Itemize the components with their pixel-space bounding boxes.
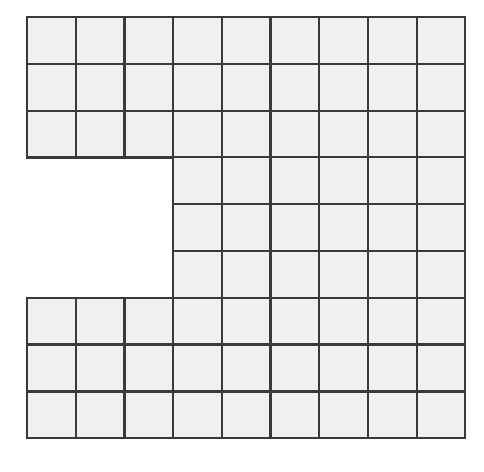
grid-cell <box>173 204 222 251</box>
grid-cell <box>173 157 222 204</box>
grid-cell <box>368 298 417 345</box>
grid-cell <box>319 17 368 64</box>
grid-cell <box>27 17 76 64</box>
grid-cell <box>271 111 320 158</box>
grid-cell <box>222 17 271 64</box>
grid-cell <box>222 64 271 111</box>
grid-cell <box>319 251 368 298</box>
grid-cell <box>271 157 320 204</box>
grid-cell <box>271 391 320 438</box>
grid-cell <box>222 251 271 298</box>
grid-cell <box>222 298 271 345</box>
grid-cell <box>319 111 368 158</box>
grid-cell <box>124 298 173 345</box>
grid-cell <box>319 298 368 345</box>
grid-cell <box>319 345 368 392</box>
grid-cell <box>173 251 222 298</box>
grid-cell <box>27 298 76 345</box>
grid-canvas <box>0 0 484 472</box>
grid-cell <box>417 17 466 64</box>
grid-figure <box>0 0 484 472</box>
grid-cell <box>173 345 222 392</box>
grid-cell <box>222 157 271 204</box>
grid-cell <box>173 17 222 64</box>
grid-cell <box>271 17 320 64</box>
grid-cell <box>271 251 320 298</box>
grid-cell <box>76 391 125 438</box>
grid-cell <box>417 204 466 251</box>
grid-cell <box>27 345 76 392</box>
grid-cell <box>319 391 368 438</box>
grid-cell <box>368 204 417 251</box>
grid-cell <box>368 345 417 392</box>
grid-cell <box>222 391 271 438</box>
grid-cell <box>368 17 417 64</box>
grid-cell <box>319 64 368 111</box>
grid-cell <box>417 111 466 158</box>
grid-cell <box>271 298 320 345</box>
grid-cell <box>27 111 76 158</box>
grid-cell <box>76 298 125 345</box>
grid-cell <box>319 157 368 204</box>
grid-cell <box>76 111 125 158</box>
grid-cell <box>124 345 173 392</box>
grid-cell <box>368 251 417 298</box>
grid-cell <box>124 17 173 64</box>
grid-cell <box>417 251 466 298</box>
grid-cell <box>124 64 173 111</box>
grid-cell <box>368 111 417 158</box>
grid-cell <box>173 391 222 438</box>
grid-cell <box>27 64 76 111</box>
grid-cell <box>173 298 222 345</box>
grid-cell <box>222 204 271 251</box>
grid-cell <box>27 391 76 438</box>
grid-cell <box>76 64 125 111</box>
grid-cell <box>222 111 271 158</box>
grid-cell <box>417 64 466 111</box>
grid-cell <box>173 111 222 158</box>
grid-cell <box>417 345 466 392</box>
grid-cells-layer <box>27 17 465 438</box>
grid-cell <box>271 64 320 111</box>
grid-cell <box>173 64 222 111</box>
grid-cell <box>417 298 466 345</box>
grid-cell <box>368 157 417 204</box>
grid-cell <box>124 391 173 438</box>
grid-cell <box>271 204 320 251</box>
grid-cell <box>417 391 466 438</box>
grid-cell <box>76 17 125 64</box>
grid-cell <box>319 204 368 251</box>
grid-cell <box>368 64 417 111</box>
grid-cell <box>271 345 320 392</box>
grid-cell <box>368 391 417 438</box>
grid-cell <box>124 111 173 158</box>
grid-cell <box>222 345 271 392</box>
grid-cell <box>417 157 466 204</box>
grid-cell <box>76 345 125 392</box>
